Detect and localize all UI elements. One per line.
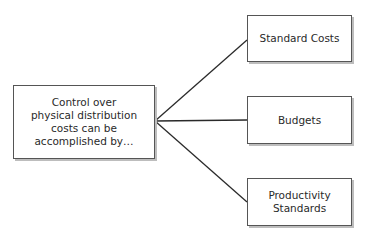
target-box-budgets: Budgets bbox=[247, 96, 352, 144]
source-label: Control over physical distribution costs… bbox=[31, 96, 137, 148]
connector-to-standard-costs bbox=[155, 40, 247, 121]
target-box-standard-costs: Standard Costs bbox=[247, 15, 352, 62]
target-label: Productivity Standards bbox=[268, 189, 330, 215]
target-label: Budgets bbox=[278, 114, 321, 127]
source-box: Control over physical distribution costs… bbox=[13, 85, 155, 159]
connector-to-budgets bbox=[155, 120, 247, 121]
target-box-productivity-standards: Productivity Standards bbox=[247, 178, 352, 226]
target-label: Standard Costs bbox=[260, 32, 340, 45]
connector-to-productivity-standards bbox=[155, 121, 247, 202]
